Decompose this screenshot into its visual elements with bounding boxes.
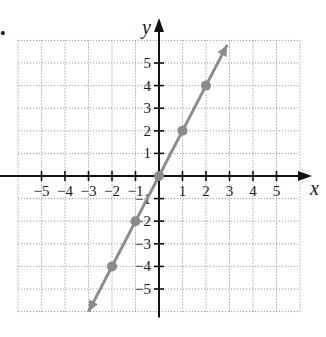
y-axis-label: y	[140, 16, 151, 39]
x-tick-label: 2	[202, 183, 210, 199]
x-tick-label: 1	[179, 183, 187, 199]
y-tick-label: −5	[135, 281, 151, 297]
y-tick-label: −3	[135, 236, 151, 252]
y-tick-label: 1	[144, 145, 152, 161]
data-point	[201, 81, 211, 91]
data-point	[154, 171, 164, 181]
problem-bullet: •	[0, 25, 6, 42]
y-tick-label: 5	[144, 55, 152, 71]
x-tick-label: −4	[57, 183, 73, 199]
coordinate-plane: • −5−4−3−2−112345−5−4−3−2−112345 x y	[0, 0, 326, 337]
data-point	[107, 261, 117, 271]
x-tick-label: −5	[34, 183, 50, 199]
x-tick-label: 3	[226, 183, 234, 199]
x-axis-label: x	[309, 177, 319, 199]
x-tick-label: −2	[104, 183, 120, 199]
x-tick-label: −3	[81, 183, 97, 199]
y-tick-label: 3	[144, 100, 152, 116]
y-tick-label: 4	[144, 78, 152, 94]
x-tick-label: 4	[249, 183, 257, 199]
data-point	[131, 216, 141, 226]
x-tick-label: 5	[273, 183, 281, 199]
y-tick-label: −4	[135, 258, 151, 274]
data-point	[178, 126, 188, 136]
y-tick-label: 2	[144, 123, 152, 139]
y-axis-arrow-icon	[154, 18, 164, 32]
